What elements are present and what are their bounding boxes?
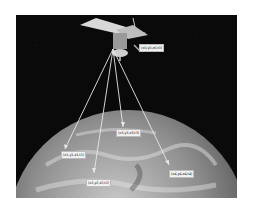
receiver-label-2: (x2,y2,z2,t2) (86, 179, 111, 187)
receiver-label-3: (x3,y3,z3,t3) (116, 129, 141, 137)
satellite-coordinate-label: (x0,y0,z0,t0) (139, 44, 164, 52)
earth-icon (16, 110, 237, 198)
figure-image: (x0,y0,z0,t0) (x1,y1,z1,t1) (x2,y2,z2,t2… (16, 15, 237, 198)
receiver-label-4: (x4,y4,z4,t4) (169, 170, 194, 178)
receiver-label-1: (x1,y1,z1,t1) (61, 151, 86, 159)
scene-graphic (16, 15, 237, 198)
